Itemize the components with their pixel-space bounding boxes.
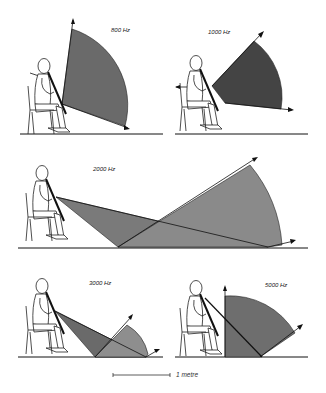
label-5000hz: 5000 Hz (265, 282, 287, 288)
panel-1000hz (175, 31, 308, 134)
label-1000hz: 1000 Hz (208, 29, 230, 35)
panel-2000hz (18, 157, 308, 248)
scale-bar (113, 373, 170, 377)
label-3000hz: 3000 Hz (89, 280, 111, 286)
radiation-sector-5000 (225, 296, 295, 357)
panel-3000hz (18, 279, 163, 358)
radiation-sector-2000-upper (118, 165, 282, 247)
scale-bar-label: 1 metre (176, 371, 198, 378)
label-2000hz: 2000 Hz (93, 166, 115, 172)
panel-800hz (20, 18, 163, 134)
radiation-sector-800 (62, 29, 128, 126)
panel-5000hz (175, 281, 308, 358)
diagram-canvas (0, 0, 326, 393)
label-800hz: 800 Hz (111, 27, 130, 33)
